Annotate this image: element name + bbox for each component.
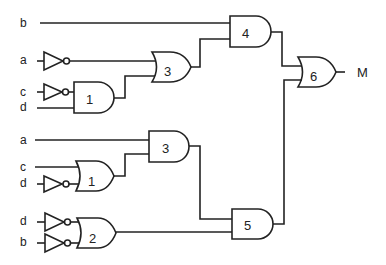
or-gate-1-bot: 1 bbox=[76, 161, 114, 191]
and-gate-3-bot: 3 bbox=[149, 131, 189, 162]
wire-or1-to-and3 bbox=[114, 154, 149, 176]
wire-and3-to-and5 bbox=[189, 146, 232, 219]
and-gate-1-top: 1 bbox=[74, 82, 114, 113]
or-gate-2: 2 bbox=[77, 218, 116, 248]
wire-and1-to-or3 bbox=[114, 76, 158, 98]
gate-label-1-bot: 1 bbox=[88, 174, 95, 189]
not-gate-a-top bbox=[44, 52, 70, 70]
gate-label-4: 4 bbox=[242, 26, 249, 41]
or-gate-3-top: 3 bbox=[152, 52, 191, 82]
gate-label-3-top: 3 bbox=[164, 64, 171, 79]
not-gate-b-bot bbox=[45, 234, 71, 252]
wire-or3-to-and4 bbox=[191, 39, 231, 67]
input-label-a-top: a bbox=[20, 53, 27, 67]
input-label-d-mid: d bbox=[20, 176, 27, 190]
wire-and5-to-or6 bbox=[273, 80, 302, 224]
gate-label-5: 5 bbox=[244, 218, 251, 233]
wire-and4-to-or6 bbox=[271, 32, 302, 66]
input-label-d-bot: d bbox=[20, 214, 27, 228]
gate-label-6: 6 bbox=[310, 69, 317, 84]
or-gate-6: 6 bbox=[298, 57, 336, 87]
output-label-m: M bbox=[357, 65, 368, 80]
gate-label-2: 2 bbox=[89, 231, 96, 246]
input-label-c-bot: c bbox=[20, 160, 26, 174]
gate-label-1-top: 1 bbox=[86, 92, 93, 107]
logic-circuit-diagram: b a c d a c d d b 1 3 4 6 bbox=[0, 0, 386, 265]
input-label-c-top: c bbox=[20, 85, 26, 99]
not-gate-c-top bbox=[44, 84, 69, 100]
input-label-b-bot: b bbox=[20, 235, 27, 249]
input-label-b-top: b bbox=[20, 16, 27, 30]
and-gate-5: 5 bbox=[232, 209, 273, 239]
gate-label-3-bot: 3 bbox=[162, 141, 169, 156]
input-label-d-top: d bbox=[20, 100, 27, 114]
and-gate-4: 4 bbox=[230, 16, 271, 47]
input-label-a-bot: a bbox=[20, 133, 27, 147]
not-gate-d-bot bbox=[45, 213, 71, 231]
not-gate-d-mid bbox=[44, 176, 69, 192]
